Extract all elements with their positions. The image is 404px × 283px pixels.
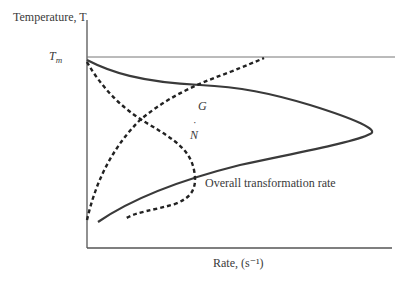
tm-label-sub: m [56, 55, 63, 65]
nucleation-rate-curve [87, 62, 195, 219]
nucleation-rate-label: ˙ N [190, 128, 198, 143]
nucleation-dot: ˙ [192, 119, 196, 134]
tm-label: Tm [49, 49, 62, 65]
diagram-canvas [0, 0, 404, 283]
growth-rate-label: G [198, 99, 207, 114]
overall-transformation-label: Overall transformation rate [205, 176, 336, 191]
overall-transformation-curve [87, 60, 372, 222]
x-axis-label: Rate, (s⁻¹) [213, 256, 264, 271]
tm-label-main: T [49, 49, 56, 63]
y-axis-label: Temperature, T [13, 10, 87, 25]
